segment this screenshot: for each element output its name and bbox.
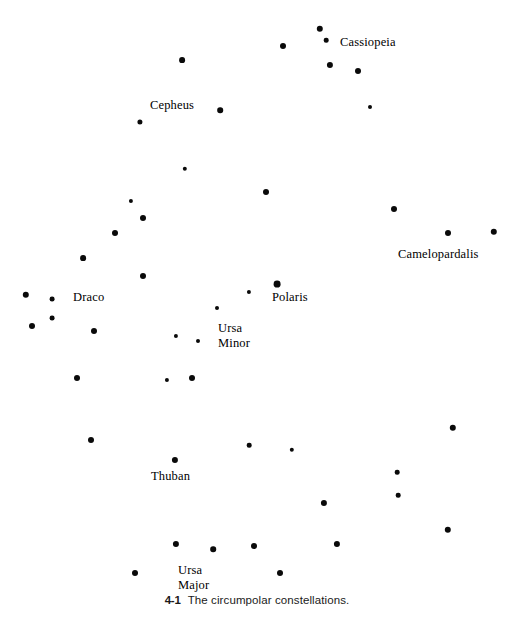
star-marker	[247, 290, 251, 294]
star-marker	[140, 273, 146, 279]
figure-caption: 4-1The circumpolar constellations.	[0, 594, 514, 606]
figure-caption-text: The circumpolar constellations.	[188, 594, 350, 606]
star-marker	[280, 43, 286, 49]
constellation-label-ursa-minor-line2: Minor	[218, 336, 250, 351]
star-marker	[23, 292, 29, 298]
constellation-label-cassiopeia: Cassiopeia	[340, 35, 396, 50]
star-marker	[29, 323, 35, 329]
star-marker	[324, 38, 329, 43]
star-marker	[277, 570, 283, 576]
star-marker	[321, 500, 327, 506]
star-marker	[140, 215, 146, 221]
star-marker	[355, 68, 361, 74]
star-marker	[50, 297, 55, 302]
star-marker	[88, 437, 94, 443]
star-marker	[91, 328, 97, 334]
star-marker	[395, 470, 400, 475]
star-marker	[334, 541, 340, 547]
star-marker	[290, 448, 294, 452]
star-marker	[132, 570, 138, 576]
star-marker	[74, 375, 80, 381]
star-marker	[165, 378, 169, 382]
star-marker	[445, 527, 451, 533]
star-marker	[217, 107, 223, 113]
star-marker	[215, 306, 219, 310]
star-marker	[129, 199, 133, 203]
constellation-label-ursa-major-line2: Major	[178, 578, 209, 593]
star-marker	[112, 230, 118, 236]
star-marker	[368, 105, 372, 109]
constellation-label-cepheus: Cepheus	[150, 98, 194, 113]
star-marker	[251, 543, 257, 549]
star-marker	[210, 546, 216, 552]
star-marker	[445, 230, 451, 236]
star-marker	[491, 229, 497, 235]
star-marker	[174, 334, 178, 338]
star-marker	[173, 541, 179, 547]
figure-number: 4-1	[165, 594, 181, 606]
star-marker	[50, 316, 55, 321]
star-chart-figure: Cassiopeia Cepheus Camelopardalis Draco …	[0, 0, 514, 629]
constellation-label-ursa-minor-line1: Ursa	[218, 321, 242, 336]
constellation-label-camelopardalis: Camelopardalis	[398, 247, 479, 262]
star-marker	[137, 119, 142, 124]
star-marker	[80, 255, 86, 261]
constellation-label-draco: Draco	[73, 290, 104, 305]
star-marker	[196, 339, 200, 343]
star-marker	[327, 62, 333, 68]
star-marker	[183, 167, 187, 171]
star-marker	[172, 457, 178, 463]
star-marker	[189, 375, 195, 381]
star-marker	[450, 425, 456, 431]
star-label-polaris: Polaris	[272, 290, 308, 305]
constellation-label-ursa-major-line1: Ursa	[178, 563, 202, 578]
star-marker	[274, 281, 281, 288]
star-marker	[179, 57, 185, 63]
star-label-thuban: Thuban	[151, 469, 190, 484]
star-marker	[317, 26, 323, 32]
star-marker	[247, 443, 252, 448]
star-marker	[391, 206, 397, 212]
star-marker	[396, 493, 401, 498]
star-marker	[263, 189, 269, 195]
starfield	[0, 0, 514, 629]
